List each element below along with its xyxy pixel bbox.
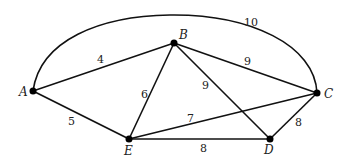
weight-e-d: 8 [200,142,207,155]
weight-c-d: 8 [295,116,302,129]
node-label-a: A [18,85,28,99]
node-e [126,136,133,143]
weight-b-d: 9 [202,79,209,92]
edge-b-e [129,43,174,139]
weight-a-e: 5 [68,115,75,128]
edge-e-c [129,93,317,139]
node-label-d: D [263,143,274,157]
weight-e-c: 7 [187,112,194,125]
edge-a-e [33,91,129,139]
node-label-c: C [324,87,333,101]
edge-a-c-arc [33,15,317,93]
node-label-e: E [123,144,133,158]
node-label-b: B [178,28,188,42]
edge-c-d [270,93,317,139]
node-d [267,136,274,143]
node-b [171,40,178,47]
weight-a-c: 10 [244,16,258,29]
weight-b-c: 9 [244,55,251,68]
node-a [30,88,37,95]
weight-b-e: 6 [141,88,148,101]
weight-a-b: 4 [97,53,104,66]
node-c [314,90,321,97]
graph-diagram: A B C D E 4 5 10 6 9 9 7 8 8 [0,0,346,164]
